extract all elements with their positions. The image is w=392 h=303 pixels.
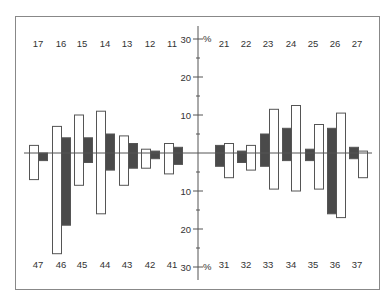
tooth-label-44: 44	[100, 259, 111, 270]
y-tick-label: 20	[180, 72, 191, 83]
tooth-label-34: 34	[286, 259, 297, 270]
bar-dark-13-43	[129, 144, 138, 169]
unit-label: %	[203, 261, 212, 272]
bar-white-16-46	[53, 126, 62, 253]
bar-white-24-34	[292, 106, 301, 192]
tooth-label-23: 23	[263, 38, 274, 49]
y-tick-label: 10	[180, 186, 191, 197]
unit-label: %	[203, 33, 212, 44]
bar-white-26-36	[337, 113, 346, 218]
y-tick-label: 30	[180, 34, 191, 45]
bar-white-12-42	[142, 149, 151, 168]
tooth-label-16: 16	[56, 38, 67, 49]
bar-white-15-45	[75, 115, 84, 185]
tooth-label-41: 41	[167, 259, 178, 270]
bar-white-17-47	[30, 145, 39, 179]
tooth-label-14: 14	[100, 38, 111, 49]
bar-dark-21-31	[216, 145, 225, 166]
bar-white-14-44	[97, 111, 106, 214]
tooth-label-42: 42	[145, 259, 156, 270]
tooth-label-32: 32	[241, 259, 252, 270]
bar-white-27-37	[359, 151, 368, 178]
tooth-label-43: 43	[122, 259, 133, 270]
bar-dark-14-44	[106, 134, 115, 170]
tooth-label-46: 46	[56, 259, 67, 270]
tooth-label-13: 13	[122, 38, 133, 49]
bar-white-23-33	[270, 109, 279, 189]
tooth-label-47: 47	[33, 259, 44, 270]
tooth-label-31: 31	[219, 259, 230, 270]
y-tick-label: 20	[180, 224, 191, 235]
bar-dark-12-42	[151, 151, 160, 159]
bar-dark-17-47	[39, 153, 48, 161]
tooth-bar-chart: 302010102030%% 1716151413121147464544434…	[0, 0, 392, 303]
tooth-label-21: 21	[219, 38, 230, 49]
tooth-label-25: 25	[308, 38, 319, 49]
bar-white-21-31	[225, 144, 234, 178]
bar-white-13-43	[120, 136, 129, 185]
tooth-label-15: 15	[77, 38, 88, 49]
bar-dark-15-45	[84, 138, 93, 163]
tooth-label-24: 24	[286, 38, 297, 49]
tooth-label-36: 36	[330, 259, 341, 270]
tooth-label-11: 11	[167, 38, 177, 49]
y-tick-label: 30	[180, 262, 191, 273]
tooth-label-22: 22	[241, 38, 252, 49]
y-tick-label: 10	[180, 110, 191, 121]
tooth-label-33: 33	[263, 259, 274, 270]
tooth-label-26: 26	[330, 38, 341, 49]
bar-white-11-41	[165, 144, 174, 174]
bar-dark-25-35	[306, 149, 315, 160]
tooth-label-37: 37	[352, 259, 363, 270]
tooth-label-35: 35	[308, 259, 319, 270]
bar-white-22-32	[247, 145, 256, 170]
bar-dark-24-34	[283, 128, 292, 160]
bar-dark-23-33	[261, 134, 270, 166]
bar-dark-26-36	[328, 128, 337, 214]
bar-dark-11-41	[174, 147, 183, 164]
bar-dark-16-46	[62, 138, 71, 225]
bar-white-25-35	[315, 125, 324, 190]
tooth-label-12: 12	[145, 38, 156, 49]
tooth-label-27: 27	[352, 38, 363, 49]
tooth-label-45: 45	[77, 259, 88, 270]
tooth-label-17: 17	[33, 38, 44, 49]
